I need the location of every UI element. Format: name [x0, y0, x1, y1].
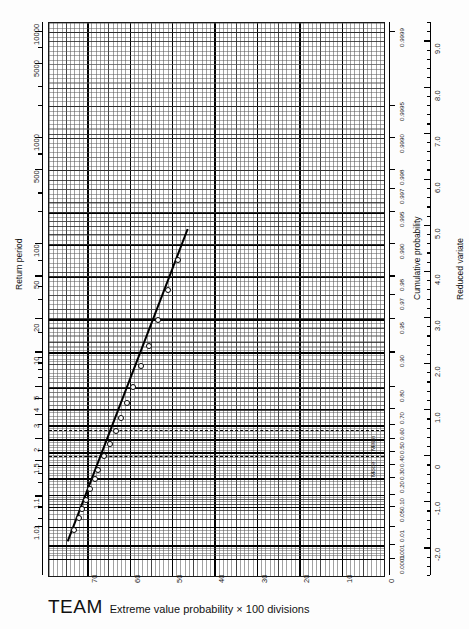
divisions-tick-label: 0: [387, 579, 396, 583]
cumulative-probability-tick-label: 0.95: [398, 322, 405, 334]
axis-tick: [427, 409, 431, 410]
axis-tick: [427, 400, 431, 401]
axis-tick: [389, 451, 395, 452]
cumulative-probability-tick-label: 0.10: [398, 498, 405, 510]
axis-tick: [427, 381, 431, 382]
axis-tick: [427, 216, 431, 217]
axis-tick: [389, 558, 395, 559]
axis-tick: [38, 424, 42, 425]
divisions-tick-label: 30: [260, 574, 269, 583]
axis-tick: [35, 318, 42, 319]
axis-tick: [427, 547, 431, 548]
axis-tick: [389, 424, 395, 425]
axis-tick: [427, 151, 431, 152]
data-point: [92, 476, 98, 482]
cumulative-probability-tick-label: 0.70: [398, 412, 405, 424]
axis-tick: [389, 477, 395, 478]
cumulative-probability-tick-label: 0.001: [398, 545, 405, 560]
axis-tick: [389, 31, 395, 32]
reduced-variate-tick-label: 2.0: [433, 366, 442, 377]
cumulative-probability-tick-label: 0.9990: [398, 134, 405, 153]
cumulative-probability-tick-label: 0.9995: [398, 102, 405, 121]
axis-tick: [427, 345, 431, 346]
axis-tick: [427, 179, 431, 180]
probability-paper-sheet: 1.011.11.523451020501005001000500010000 …: [0, 0, 469, 629]
axis-tick: [427, 22, 431, 23]
axis-tick: [427, 566, 431, 567]
axis-tick: [38, 332, 42, 333]
reduced-variate-tick-label: 8.0: [433, 90, 442, 101]
axis-tick: [427, 446, 431, 447]
return-period-axis-title: Return period: [14, 238, 24, 290]
plot-area: [48, 22, 385, 577]
axis-tick: [427, 40, 431, 41]
reduced-variate-tick-label: -1.0: [433, 502, 442, 515]
axis-tick: [427, 335, 431, 336]
axis-tick: [389, 137, 395, 138]
axis-tick: [38, 153, 42, 154]
axis-tick: [38, 47, 42, 48]
axis-tick: [427, 234, 431, 235]
axis-tick: [389, 544, 395, 545]
cumulative-probability-tick-label: 0.80: [398, 390, 405, 402]
axis-tick: [427, 363, 431, 364]
return-period-tick-label: 10: [32, 357, 41, 366]
axis-tick: [427, 280, 431, 281]
axis-tick: [389, 243, 395, 244]
axis-tick: [35, 438, 42, 439]
axis-tick: [38, 377, 42, 378]
cumulative-probability-tick-label: 0.50: [398, 442, 405, 454]
axis-tick: [35, 414, 42, 415]
divisions-tick-label: 60: [133, 574, 142, 583]
cumulative-probability-tick-label: 0.20: [398, 481, 405, 493]
axis-rail: [430, 22, 431, 575]
axis-tick: [427, 538, 431, 539]
axis-tick: [38, 466, 42, 467]
data-series-layer: [49, 23, 384, 576]
axis-rail: [42, 22, 43, 575]
axis-tick: [38, 473, 42, 474]
cumulative-probability-tick-label: 0.40: [398, 455, 405, 467]
return-period-tick-label: 1.01: [32, 525, 41, 540]
cumulative-probability-tick-label: 0.30: [398, 468, 405, 480]
cumulative-probability-tick-label: 0.60: [398, 428, 405, 440]
axis-tick: [427, 317, 431, 318]
cumulative-probability-tick-label: 0.05: [398, 510, 405, 522]
return-period-tick-label: 4: [32, 407, 41, 411]
axis-tick: [427, 77, 431, 78]
axis-tick: [427, 299, 431, 300]
axis-tick: [427, 188, 431, 189]
axis-tick: [35, 495, 42, 496]
axis-tick: [427, 492, 431, 493]
axis-tick: [427, 557, 431, 558]
data-point: [146, 343, 152, 349]
cumulative-probability-tick-label: 0.990: [398, 244, 405, 259]
axis-tick: [389, 188, 395, 189]
axis-tick: [427, 501, 431, 502]
data-point: [130, 384, 136, 390]
axis-tick: [427, 59, 431, 60]
axis-tick: [427, 243, 431, 244]
reduced-variate-tick-label: 6.0: [433, 182, 442, 193]
axis-tick: [38, 362, 42, 363]
axis-tick: [389, 408, 395, 409]
axis-tick: [389, 494, 395, 495]
return-period-tick-label: 10000: [32, 23, 41, 44]
axis-tick: [389, 506, 395, 507]
reduced-variate-tick-label: 4.0: [433, 274, 442, 285]
reduced-variate-axis-title: Reduced variate: [455, 238, 465, 300]
axis-tick: [389, 438, 395, 439]
grid-line-vertical: [384, 23, 385, 576]
data-point: [76, 515, 82, 521]
reduced-variate-tick-label: 5.0: [433, 228, 442, 239]
axis-tick: [427, 575, 431, 576]
cumulative-probability-tick-label: 0.01: [398, 530, 405, 542]
data-point: [79, 506, 85, 512]
data-point: [95, 467, 101, 473]
axis-tick: [427, 308, 431, 309]
cumulative-probability-tick-label: 0.995: [398, 212, 405, 227]
axis-tick: [427, 96, 431, 97]
data-point: [83, 497, 89, 503]
axis-tick: [427, 31, 431, 32]
axis-tick: [38, 518, 42, 519]
